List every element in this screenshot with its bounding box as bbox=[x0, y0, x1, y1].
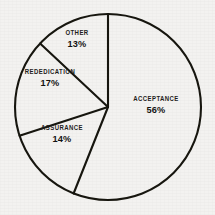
pie-chart-figure: ACCEPTANCE 56% ASSURANCE 14% REDEDICATIO… bbox=[0, 0, 215, 215]
pie-chart-graphic bbox=[0, 0, 215, 215]
